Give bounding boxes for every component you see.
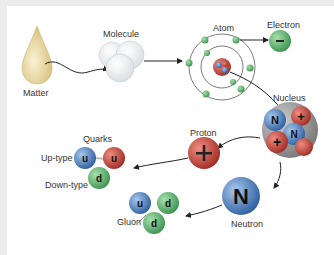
svg-text:N: N bbox=[233, 184, 249, 209]
arrow-atom-nucleus bbox=[230, 72, 282, 110]
svg-text:N: N bbox=[271, 114, 279, 126]
label-quarks: Quarks bbox=[83, 134, 112, 144]
arrow-proton-quarks bbox=[134, 158, 188, 168]
proton-icon bbox=[188, 137, 220, 169]
label-molecule: Molecule bbox=[103, 29, 139, 39]
label-up-type: Up-type bbox=[41, 153, 73, 163]
arrow-neutron-quarks bbox=[186, 205, 222, 216]
electron-icon bbox=[269, 30, 291, 52]
label-nucleus: Nucleus bbox=[273, 93, 306, 103]
neutron-icon: N bbox=[222, 177, 260, 215]
svg-text:+: + bbox=[273, 134, 281, 150]
svg-text:u: u bbox=[111, 153, 117, 164]
nucleus-icon: N N + + bbox=[262, 102, 318, 158]
label-down-type: Down-type bbox=[45, 180, 88, 190]
molecule-icon bbox=[99, 41, 144, 82]
arrow-nucleus-neutron bbox=[274, 162, 281, 188]
svg-text:N: N bbox=[290, 129, 297, 140]
svg-text:d: d bbox=[96, 173, 102, 184]
label-proton: Proton bbox=[190, 128, 217, 138]
matter-diagram: N N + + N u u d u d d bbox=[0, 0, 334, 255]
atom-icon bbox=[186, 34, 256, 100]
matter-drop-icon bbox=[22, 26, 52, 84]
arrow-matter-molecule bbox=[45, 62, 108, 73]
label-electron: Electron bbox=[267, 20, 300, 30]
label-gluon: Gluon bbox=[117, 217, 141, 227]
label-neutron: Neutron bbox=[231, 219, 263, 229]
label-matter: Matter bbox=[23, 88, 49, 98]
svg-text:d: d bbox=[165, 198, 171, 209]
neutron-quarks-icon: u d d bbox=[129, 192, 179, 234]
label-atom: Atom bbox=[213, 23, 234, 33]
svg-text:d: d bbox=[151, 218, 157, 229]
svg-text:+: + bbox=[297, 109, 305, 124]
svg-text:u: u bbox=[137, 198, 143, 209]
arrow-nucleus-proton bbox=[218, 137, 260, 148]
svg-text:u: u bbox=[82, 153, 88, 164]
